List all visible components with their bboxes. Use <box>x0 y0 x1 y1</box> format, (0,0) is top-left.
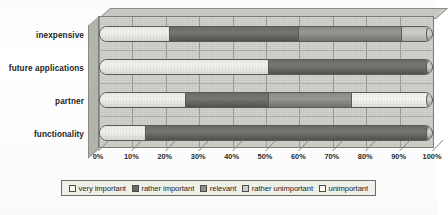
x-tick-mark <box>432 140 444 151</box>
x-axis-label-50pct: 50% <box>258 152 273 161</box>
x-axis-label-90pct: 90% <box>391 152 406 161</box>
category-axis-labels: inexpensivefuture applicationspartnerfun… <box>0 16 88 146</box>
x-tick-mark <box>332 140 344 151</box>
legend-swatch-icon <box>242 185 249 192</box>
category-label-functionality: functionality <box>34 130 84 139</box>
bar-functionality <box>99 125 433 141</box>
legend-label: unimportant <box>329 184 369 193</box>
x-axis-label-80pct: 80% <box>358 152 373 161</box>
legend-label: rather unimportant <box>252 184 313 193</box>
legend-label: relevant <box>210 184 237 193</box>
chart-legend: very importantrather importantrelevantra… <box>61 180 376 196</box>
bar-segment-very-important <box>100 126 146 140</box>
x-tick-mark <box>232 140 244 151</box>
x-tick-mark <box>131 140 143 151</box>
x-axis-label-60pct: 60% <box>291 152 306 161</box>
x-tick-mark <box>365 140 377 151</box>
x-axis-label-10pct: 10% <box>124 152 139 161</box>
gridline-horizontal <box>99 116 433 117</box>
bar-end-cap <box>426 125 433 141</box>
category-label-inexpensive: inexpensive <box>36 31 84 40</box>
x-axis-label-20pct: 20% <box>157 152 172 161</box>
x-axis-tick-labels: 0%10%20%30%40%50%60%70%80%90%100% <box>78 152 437 164</box>
plot-back-wall <box>98 16 434 148</box>
bar-segment-relevant <box>269 93 352 107</box>
bar-end-cap <box>426 26 433 42</box>
x-tick-mark <box>399 140 411 151</box>
x-axis-label-0pct: 0% <box>93 152 104 161</box>
gridline-vertical <box>433 17 434 147</box>
x-tick-mark <box>165 140 177 151</box>
x-axis-label-100pct: 100% <box>423 152 442 161</box>
bar-partner <box>99 92 433 108</box>
x-axis-label-70pct: 70% <box>324 152 339 161</box>
legend-label: very important <box>79 184 126 193</box>
bar-segment-relevant <box>299 27 402 41</box>
x-tick-mark <box>265 140 277 151</box>
bar-end-cap <box>426 59 433 75</box>
bar-segment-rather-important <box>269 60 432 74</box>
legend-item-very-important[interactable]: very important <box>69 184 126 193</box>
bar-end-cap <box>426 92 433 108</box>
legend-swatch-icon <box>319 185 326 192</box>
legend-item-rather-unimportant[interactable]: rather unimportant <box>242 184 313 193</box>
bar-segment-unimportant <box>352 93 432 107</box>
gridline-horizontal <box>99 50 433 51</box>
x-tick-mark <box>298 140 310 151</box>
legend-swatch-icon <box>132 185 139 192</box>
category-label-partner: partner <box>55 97 84 106</box>
bar-future-applications <box>99 59 433 75</box>
bar-segment-very-important <box>100 60 269 74</box>
bar-segment-rather-important <box>170 27 299 41</box>
legend-swatch-icon <box>69 185 76 192</box>
x-tick-mark <box>98 140 110 151</box>
bar-segment-very-important <box>100 27 170 41</box>
x-axis-label-40pct: 40% <box>224 152 239 161</box>
legend-swatch-icon <box>200 185 207 192</box>
bar-segment-very-important <box>100 93 186 107</box>
bar-inexpensive <box>99 26 433 42</box>
category-label-future-applications: future applications <box>9 64 84 73</box>
legend-item-unimportant[interactable]: unimportant <box>319 184 368 193</box>
legend-label: rather important <box>141 184 194 193</box>
legend-item-relevant[interactable]: relevant <box>200 184 236 193</box>
bar-segment-rather-important <box>146 126 432 140</box>
gridline-horizontal <box>99 83 433 84</box>
bar-segment-rather-important <box>186 93 269 107</box>
plot-area-3d <box>88 8 436 150</box>
legend-item-rather-important[interactable]: rather important <box>132 184 194 193</box>
x-tick-mark <box>198 140 210 151</box>
x-axis-label-30pct: 30% <box>191 152 206 161</box>
